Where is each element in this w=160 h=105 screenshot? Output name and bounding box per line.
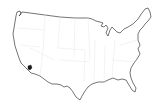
us-outline: [13, 8, 151, 100]
us-map: [0, 0, 160, 105]
